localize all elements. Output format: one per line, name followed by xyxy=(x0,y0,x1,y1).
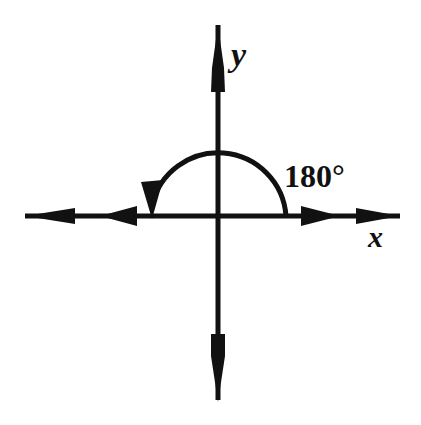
x-axis-left-inner-arrowhead xyxy=(100,206,137,226)
x-axis-group xyxy=(25,206,400,226)
y-axis-label: y xyxy=(231,38,246,72)
angle-arc-arrowhead xyxy=(141,180,163,219)
y-axis-down-arrowhead xyxy=(211,334,225,402)
x-axis-right-inner-arrowhead xyxy=(301,206,340,226)
angle-diagram-figure: y x 180° xyxy=(0,0,421,425)
x-axis-label: x xyxy=(368,222,383,252)
coordinate-plane-diagram xyxy=(0,0,421,425)
x-axis-left-outer-arrowhead xyxy=(25,208,75,224)
angle-arc-group xyxy=(141,153,286,219)
angle-measure-label: 180° xyxy=(284,160,345,192)
y-axis-up-arrowhead xyxy=(211,25,225,92)
